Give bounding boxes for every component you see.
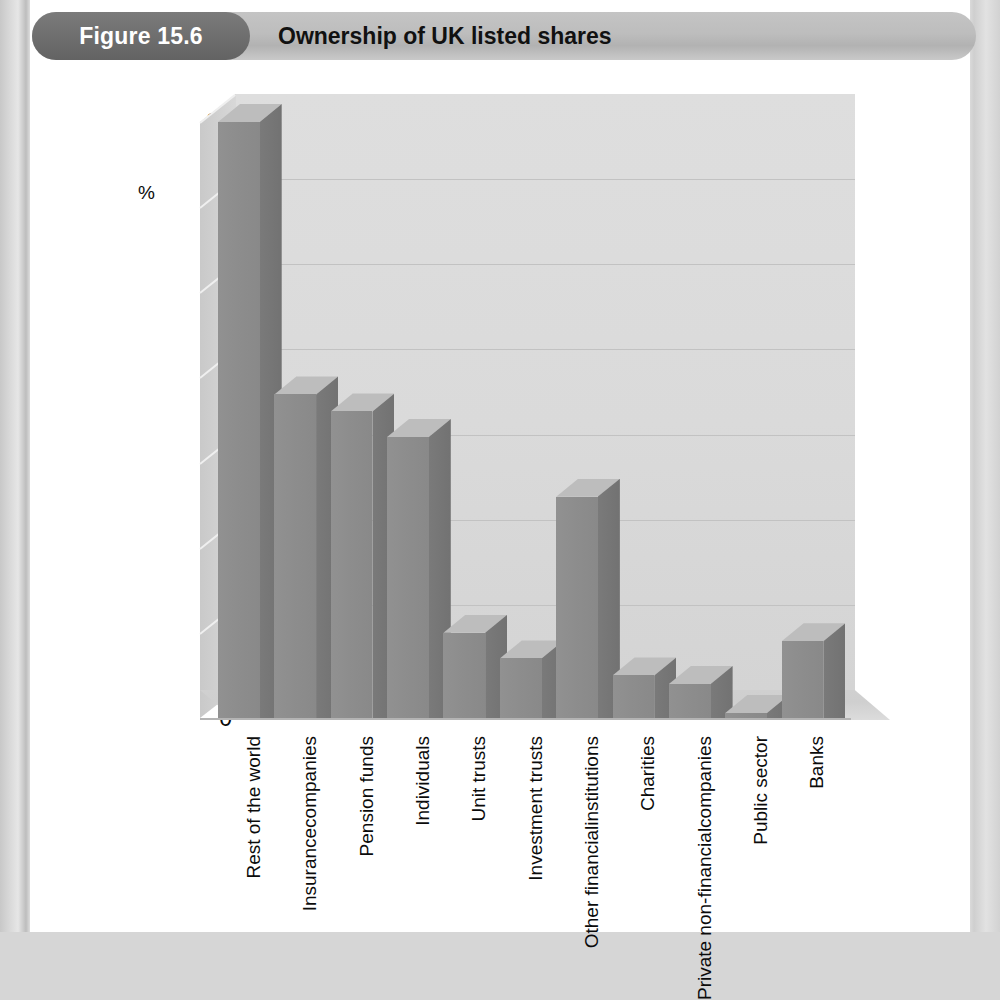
bar-front-face (500, 658, 542, 718)
x-category-label: Unit trusts (469, 736, 489, 822)
x-category-label-line: Public sector (751, 736, 771, 845)
bar-chart: % 05101520253035 Rest of the worldInsura… (40, 70, 960, 920)
bar-column[interactable] (387, 419, 451, 718)
x-category-label-line: companies (695, 736, 715, 828)
x-category-label: Investment trusts (526, 736, 546, 881)
bar-column[interactable] (782, 623, 846, 718)
bar-column[interactable] (669, 666, 733, 718)
x-category-label: Banks (807, 736, 827, 789)
bar-column[interactable] (443, 615, 507, 718)
x-category-label-line: Private non-financial (695, 828, 715, 1000)
bar-column[interactable] (556, 479, 620, 718)
gridline (235, 179, 855, 180)
x-category-label-line: Insurance (300, 828, 320, 911)
figure-title: Ownership of UK listed shares (278, 12, 612, 60)
x-category-label-line: institutions (582, 736, 602, 826)
bar-front-face (274, 394, 316, 718)
x-category-label-line: Pension funds (357, 736, 377, 856)
bar-front-face (443, 633, 485, 718)
bar-front-face (218, 122, 260, 718)
x-category-label: Insurancecompanies (300, 736, 320, 911)
bar-front-face (556, 497, 598, 718)
figure-number-label: Figure 15.6 (79, 23, 203, 50)
bar-column[interactable] (500, 640, 564, 718)
x-category-label: Individuals (413, 736, 433, 826)
gridline (235, 349, 855, 350)
x-category-label-line: Rest of the world (244, 736, 264, 879)
x-category-label-line: Other financial (582, 826, 602, 949)
bar-front-face (669, 684, 711, 718)
figure-number-badge: Figure 15.6 (32, 12, 250, 60)
bar-column[interactable] (725, 695, 789, 718)
plot-area (40, 70, 960, 830)
bar-front-face (331, 411, 373, 718)
x-axis-category-labels: Rest of the worldInsurancecompaniesPensi… (40, 730, 960, 1000)
x-category-label: Public sector (751, 736, 771, 845)
bar-front-face (782, 641, 824, 718)
x-category-label: Charities (638, 736, 658, 811)
x-category-label: Rest of the world (244, 736, 264, 879)
x-category-label: Other financialinstitutions (582, 736, 602, 948)
x-category-label-line: Investment trusts (526, 736, 546, 881)
x-category-label-line: Unit trusts (469, 736, 489, 822)
x-category-label-line: companies (300, 736, 320, 828)
gridline (235, 264, 855, 265)
x-category-label: Pension funds (357, 736, 377, 856)
bar-front-face (725, 713, 767, 718)
x-category-label-line: Individuals (413, 736, 433, 826)
bar-column[interactable] (218, 104, 282, 718)
bar-column[interactable] (331, 393, 395, 718)
bar-front-face (387, 437, 429, 718)
x-category-label: Private non-financialcompanies (695, 736, 715, 1000)
bar-front-face (613, 675, 655, 718)
bar-column[interactable] (274, 376, 338, 718)
plot-baseline (200, 718, 851, 720)
bar-column[interactable] (613, 657, 677, 718)
x-category-label-line: Banks (807, 736, 827, 789)
x-category-label-line: Charities (638, 736, 658, 811)
